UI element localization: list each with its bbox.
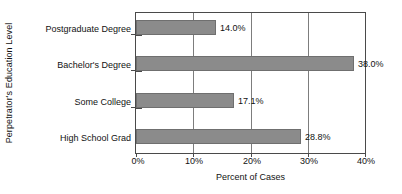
plot-ytick-stub-2 <box>136 71 142 72</box>
bar-bachelors-degree <box>136 56 354 71</box>
value-label-postgraduate-degree: 14.0% <box>220 23 246 33</box>
x-axis-title: Percent of Cases <box>135 172 366 182</box>
category-label-some-college: Some College <box>74 97 131 107</box>
value-label-bachelors-degree: 38.0% <box>358 59 384 69</box>
x-tick-label-10: 10% <box>185 156 203 166</box>
x-axis-tick-labels: 0% 10% 20% 30% 40% <box>0 156 402 170</box>
x-tick-label-40: 40% <box>357 156 375 166</box>
bar-postgraduate-degree <box>136 20 216 35</box>
category-label-bachelors-degree: Bachelor's Degree <box>57 60 131 70</box>
plot-area <box>135 12 366 154</box>
y-axis-title-text: Perpetrator's Education Level <box>4 22 14 143</box>
bar-some-college <box>136 93 234 108</box>
bar-high-school-grad <box>136 129 301 144</box>
y-axis-category-labels: Postgraduate Degree Bachelor's Degree So… <box>18 12 134 154</box>
category-label-high-school-grad: High School Grad <box>60 133 131 143</box>
value-label-high-school-grad: 28.8% <box>305 132 331 142</box>
plot-ytick-stub-3 <box>136 108 142 109</box>
x-tick-label-20: 20% <box>243 156 261 166</box>
plot-ytick-stub-1 <box>136 35 142 36</box>
bar-chart-figure: Perpetrator's Education Level Postgradua… <box>0 0 402 194</box>
y-axis-title: Perpetrator's Education Level <box>0 0 18 165</box>
category-label-postgraduate-degree: Postgraduate Degree <box>45 24 131 34</box>
x-tick-label-0: 0% <box>131 156 144 166</box>
value-label-some-college: 17.1% <box>238 96 264 106</box>
x-tick-label-30: 30% <box>300 156 318 166</box>
